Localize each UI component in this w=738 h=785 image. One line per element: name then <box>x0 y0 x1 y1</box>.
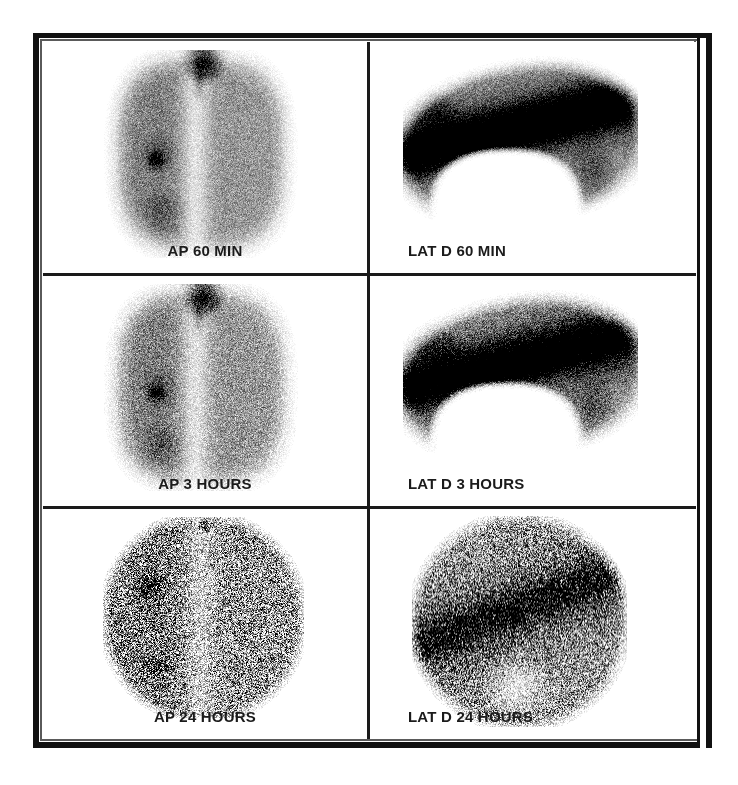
scintigram-ap-3-hours <box>43 276 367 506</box>
scintigram-canvas <box>104 284 298 491</box>
scan-panel-ap-24-hours: AP 24 HOURS <box>43 509 370 739</box>
frame-top-hairline <box>40 39 697 41</box>
scintigram-canvas <box>403 52 638 237</box>
frame-right-outer-rule <box>706 33 712 748</box>
scintigram-lat-d-3-hours <box>370 276 696 506</box>
scintigram-lat-d-24-hours <box>370 509 696 739</box>
frame-right-inner-rule <box>697 33 700 748</box>
frame-top-rule <box>33 33 712 38</box>
panel-label-ap-24-hours: AP 24 HOURS <box>43 708 367 725</box>
frame-left-rule <box>33 33 39 748</box>
scan-panel-grid: AP 60 MIN LAT D 60 MIN AP 3 HOURS LAT D … <box>43 42 696 739</box>
scintigram-canvas <box>103 517 304 718</box>
scan-panel-lat-d-60-min: LAT D 60 MIN <box>370 42 696 276</box>
scan-panel-lat-d-24-hours: LAT D 24 HOURS <box>370 509 696 739</box>
frame-left-hairline <box>40 39 42 741</box>
scintigram-ap-24-hours <box>43 509 367 739</box>
frame-bottom-hairline <box>40 739 697 741</box>
panel-label-lat-d-3-hours: LAT D 3 HOURS <box>408 475 525 492</box>
scintigram-canvas <box>412 516 627 727</box>
panel-label-ap-3-hours: AP 3 HOURS <box>43 475 367 492</box>
scan-panel-lat-d-3-hours: LAT D 3 HOURS <box>370 276 696 509</box>
scintigram-canvas <box>104 50 298 258</box>
scintigram-ap-60-min <box>43 42 367 273</box>
figure-frame: AP 60 MIN LAT D 60 MIN AP 3 HOURS LAT D … <box>33 33 712 748</box>
panel-label-lat-d-60-min: LAT D 60 MIN <box>408 242 506 259</box>
panel-label-lat-d-24-hours: LAT D 24 HOURS <box>408 708 533 725</box>
scan-panel-ap-60-min: AP 60 MIN <box>43 42 370 276</box>
panel-label-ap-60-min: AP 60 MIN <box>43 242 367 259</box>
scintigram-lat-d-60-min <box>370 42 696 273</box>
scan-panel-ap-3-hours: AP 3 HOURS <box>43 276 370 509</box>
scintigram-canvas <box>403 286 638 470</box>
frame-bottom-rule <box>33 742 700 748</box>
